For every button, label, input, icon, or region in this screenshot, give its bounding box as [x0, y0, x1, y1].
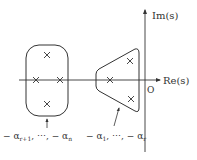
dominant-poles-pointer-arrow	[114, 108, 119, 126]
dominant-poles-label: − α1, ⋯, − αr	[86, 131, 146, 142]
far-poles	[33, 52, 63, 107]
s-plane-diagram: Im(s) Re(s) O − αr+1, ⋯, − αn − α1, ⋯, −…	[0, 0, 197, 160]
far-poles-label: − αr+1, ⋯, − αn	[3, 131, 72, 142]
pole-marker-icon	[127, 58, 133, 64]
pole-marker-icon	[44, 52, 50, 58]
far-poles-region	[26, 45, 68, 116]
pole-marker-icon	[44, 101, 50, 107]
pole-marker-icon	[128, 96, 134, 102]
real-axis-label: Re(s)	[163, 75, 189, 86]
imag-axis-label: Im(s)	[152, 10, 178, 21]
origin-label: O	[147, 85, 154, 95]
